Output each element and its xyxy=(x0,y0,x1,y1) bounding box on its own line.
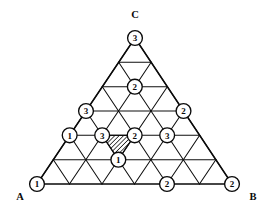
vertex-label: 3 xyxy=(133,33,138,43)
grid-line xyxy=(183,135,199,159)
vertex-label: 2 xyxy=(165,179,170,189)
triangulation-diagram: 323213231122 CAB xyxy=(0,0,273,214)
vertex-label: 3 xyxy=(100,131,105,141)
vertex-apex: 3 xyxy=(128,31,143,46)
vertex-label: 1 xyxy=(116,155,121,165)
vertex-label: 3 xyxy=(165,131,170,141)
vertex-label: 3 xyxy=(84,106,89,116)
vertex-r3-c0: 3 xyxy=(79,104,94,119)
vertex-r4-c0: 1 xyxy=(62,128,77,143)
vertex-r6-c4: 2 xyxy=(160,177,175,192)
vertex-r6-c0: 1 xyxy=(30,177,45,192)
vertex-label: 2 xyxy=(133,82,138,92)
grid-line xyxy=(151,87,167,111)
vertex-label: 1 xyxy=(67,131,72,141)
vertex-label: 2 xyxy=(230,179,235,189)
vertex-r4-c1: 3 xyxy=(95,128,110,143)
grid-line xyxy=(183,160,199,184)
vertex-r3-c3: 2 xyxy=(176,104,191,119)
grid-line xyxy=(200,160,216,184)
corner-label-b: B xyxy=(249,191,256,202)
grid-line xyxy=(70,160,86,184)
grid-lines-layer xyxy=(37,38,232,184)
grid-line xyxy=(86,160,102,184)
vertex-r4-c3: 3 xyxy=(160,128,175,143)
corner-label-c: C xyxy=(131,9,139,20)
grid-line xyxy=(102,87,118,111)
grid-line xyxy=(135,160,151,184)
vertex-r6-c6: 2 xyxy=(225,177,240,192)
vertex-r2-c1: 2 xyxy=(127,79,142,94)
grid-line xyxy=(53,160,69,184)
vertex-r5-c2: 1 xyxy=(111,152,126,167)
vertex-label: 2 xyxy=(181,106,186,116)
vertex-r4-c2: 2 xyxy=(127,128,142,143)
corner-label-a: A xyxy=(16,191,24,202)
vertex-label: 1 xyxy=(35,179,40,189)
vertex-label: 2 xyxy=(132,131,137,141)
figure-root: 323213231122 CAB xyxy=(0,0,273,214)
